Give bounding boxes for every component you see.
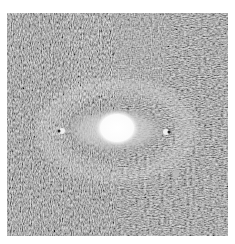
- small-spot: [173, 169, 179, 179]
- bright-core: [95, 110, 139, 146]
- flow-texture: [7, 13, 228, 236]
- right-pole-dark: [168, 131, 171, 134]
- left-pole-dark: [58, 130, 61, 133]
- top-caption-cutoff: [0, 0, 235, 8]
- field-visualization: [7, 13, 228, 236]
